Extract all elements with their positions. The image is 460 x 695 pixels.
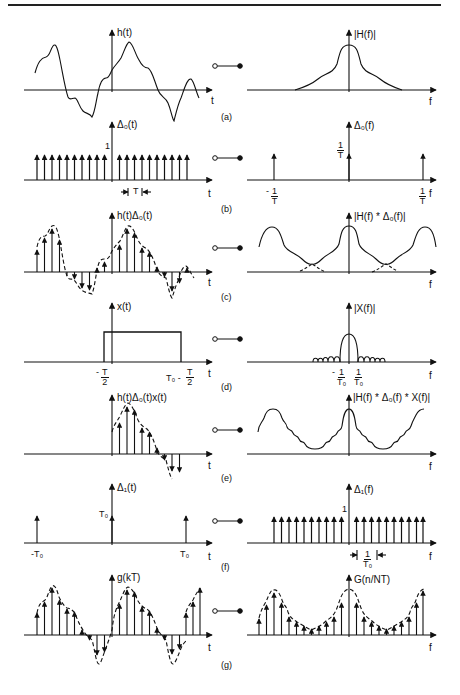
row-d-freq-left-tick: -1T₀ (337, 368, 346, 387)
row-e-time-label: h(t)Δ₀(t)x(t) (117, 393, 167, 403)
row-d-time-right-tick: T2 (186, 368, 194, 387)
row-g-time-plot (24, 575, 212, 664)
row-b-freq-label: Δ₀(f) (354, 121, 374, 131)
panel-tag-d: (d) (221, 382, 232, 392)
row-d-time-plot (24, 303, 212, 364)
row-e-freq-label: |H(f) * Δ₀(f) * X(f)| (353, 393, 430, 403)
row-b-impulse-height: 1 (105, 142, 110, 151)
row-e-freq-plot (247, 395, 436, 456)
row-a-freq-label: |H(f)| (354, 30, 376, 40)
row-a-time-axis-label: t (211, 96, 214, 106)
row-b-time-label: Δ₀(t) (117, 120, 137, 130)
row-e-freq-axis-label: f (429, 462, 432, 472)
panel-tag-a: (a) (221, 112, 232, 122)
row-f-freq-label: Δ₁(f) (354, 485, 374, 495)
row-b-freq-right-tick: 1T (419, 187, 426, 206)
panel-tag-e: (e) (221, 473, 232, 483)
row-a-time-label: h(t) (117, 28, 132, 38)
row-g-time-axis-label: t (208, 643, 211, 653)
panel-tag-g: (g) (221, 660, 232, 670)
dft-derivation-figure (0, 0, 460, 695)
row-f-time-label: Δ₁(t) (117, 483, 137, 493)
row-f-left-tick: -T₀ (31, 550, 43, 559)
row-g-freq-label: G(n/NT) (354, 575, 390, 585)
row-b-freq-left-tick: -1T (271, 187, 278, 206)
row-d-freq-plot (247, 303, 436, 364)
row-f-time-plot (24, 484, 212, 545)
row-d-time-right-prefix: T₀ - (166, 374, 181, 383)
row-f-height-label: T₀ (99, 510, 108, 519)
row-c-freq-plot (247, 213, 436, 274)
row-f-freq-axis-label: f (429, 552, 432, 562)
row-f-freq-impulse-height: 1 (342, 505, 347, 514)
panel-tag-f: (f) (221, 562, 230, 572)
row-d-freq-label: |X(f)| (354, 304, 375, 314)
row-b-freq-height-fraction: 1T (337, 141, 344, 160)
row-a-freq-axis-label: f (429, 97, 432, 107)
row-d-time-left-tick: -T2 (101, 368, 109, 387)
panel-tag-b: (b) (221, 204, 232, 214)
row-b-time-axis-label: t (208, 189, 211, 199)
row-d-time-axis-label: t (208, 369, 211, 379)
row-d-freq-right-tick: 1T₀ (354, 368, 363, 387)
row-e-time-axis-label: t (208, 461, 211, 471)
row-g-time-label: g(kT) (117, 573, 140, 583)
row-a-time-plot (24, 30, 212, 121)
row-c-time-axis-label: t (208, 278, 211, 288)
row-c-freq-axis-label: f (429, 280, 432, 290)
row-c-time-label: h(t)Δ₀(t) (117, 211, 152, 221)
transform-pair-symbols (213, 64, 243, 614)
row-f-right-tick: T₀ (180, 550, 189, 559)
row-f-freq-plot (247, 484, 436, 560)
panel-tag-c: (c) (221, 292, 232, 302)
row-b-spacing-label: T (133, 187, 139, 196)
row-e-time-plot (24, 395, 212, 479)
row-g-freq-plot (247, 575, 436, 637)
row-c-freq-label: |H(f) * Δ₀(f)| (354, 212, 406, 222)
row-d-time-label: x(t) (117, 302, 131, 312)
row-f-time-axis-label: t (208, 552, 211, 562)
row-d-freq-axis-label: f (429, 371, 432, 381)
row-g-freq-axis-label: f (429, 643, 432, 653)
row-b-time-plot (24, 122, 212, 196)
row-a-freq-plot (247, 30, 436, 92)
row-c-time-plot (24, 213, 212, 298)
row-f-freq-spacing-fraction: 1T₀ (363, 550, 372, 569)
row-b-freq-axis-label: f (429, 189, 432, 199)
